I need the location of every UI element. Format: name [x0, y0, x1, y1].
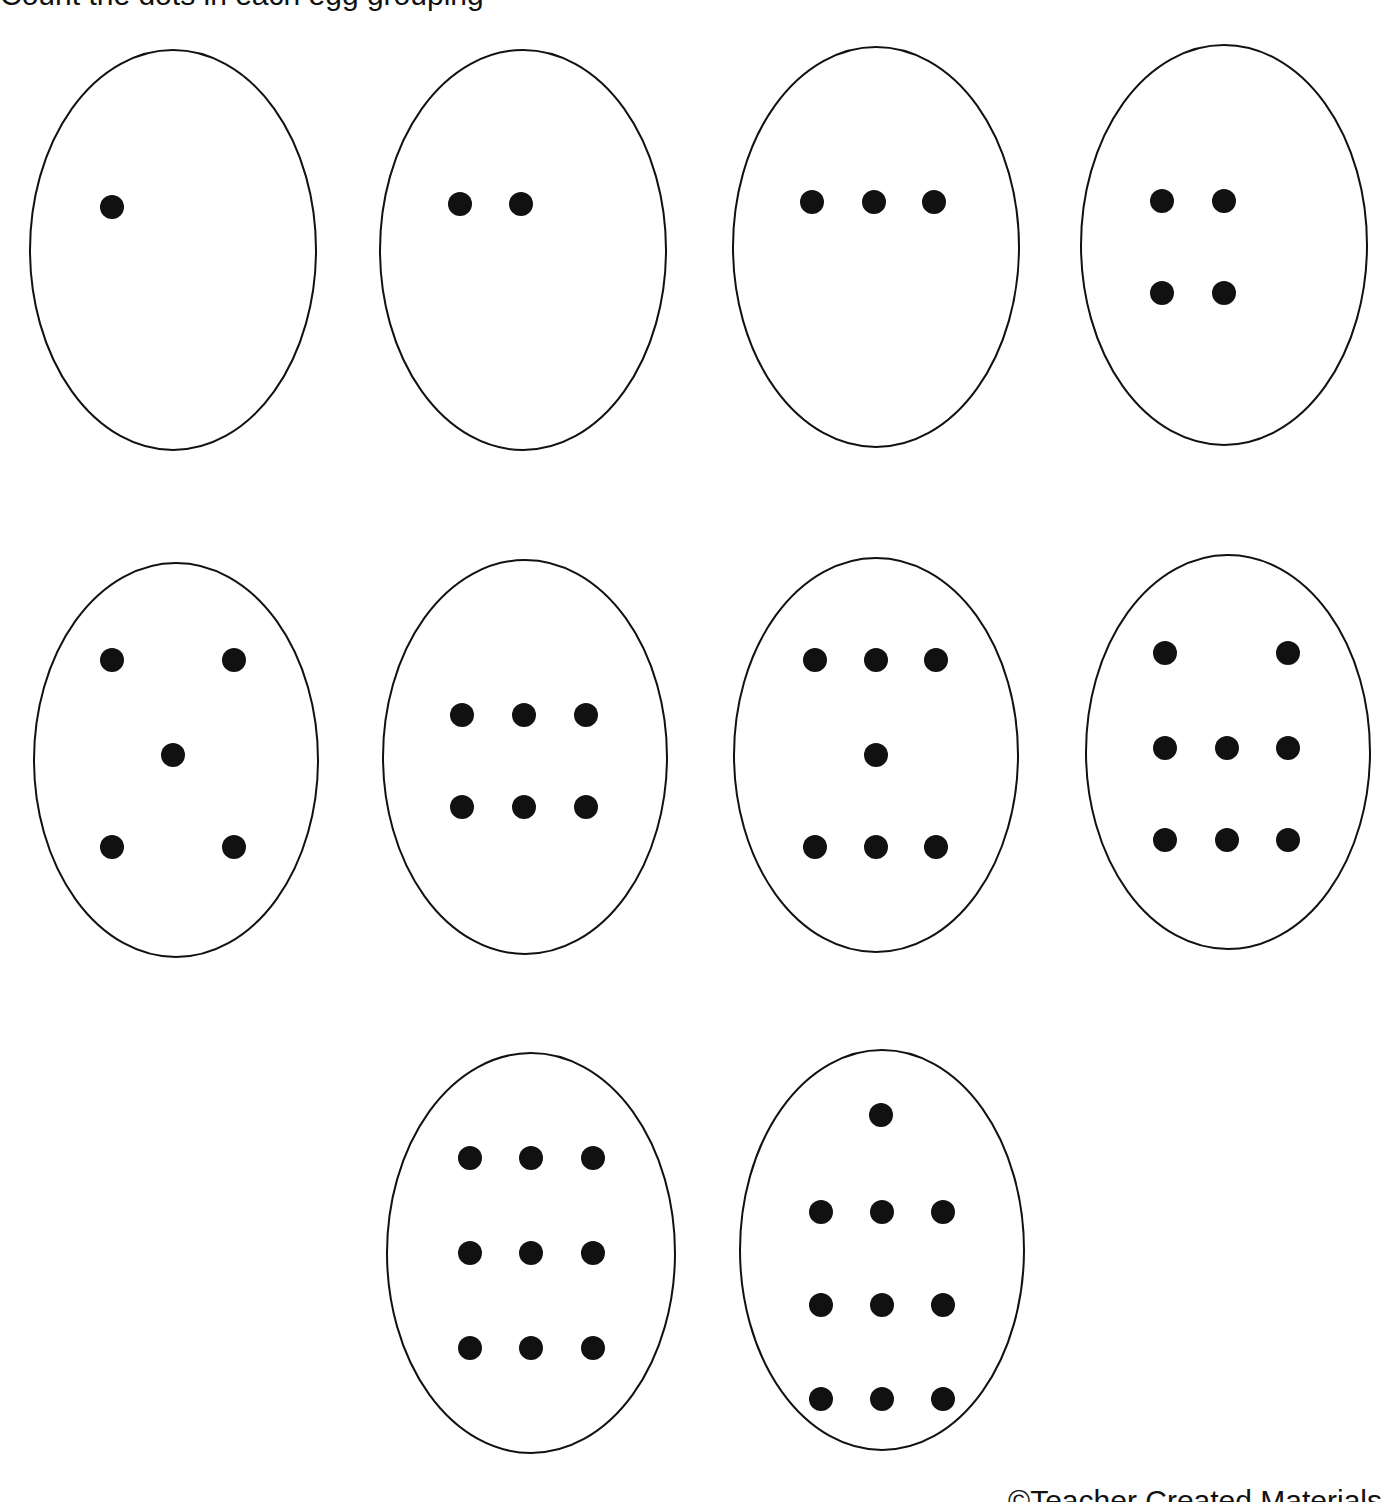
dot — [864, 835, 888, 859]
dot — [458, 1336, 482, 1360]
dot — [1215, 736, 1239, 760]
dot — [100, 195, 124, 219]
egg-worksheet — [0, 0, 1390, 1502]
dot — [1276, 736, 1300, 760]
dot — [924, 835, 948, 859]
egg-7 — [734, 558, 1018, 952]
dot — [1153, 828, 1177, 852]
dot — [809, 1293, 833, 1317]
dot — [519, 1241, 543, 1265]
dot — [1150, 281, 1174, 305]
dot — [862, 190, 886, 214]
dot — [800, 190, 824, 214]
dot — [450, 795, 474, 819]
dot — [922, 190, 946, 214]
dot — [1276, 641, 1300, 665]
egg-1 — [30, 50, 316, 450]
dot — [100, 835, 124, 859]
dot — [1153, 641, 1177, 665]
dot — [458, 1146, 482, 1170]
dot — [574, 795, 598, 819]
egg-6 — [383, 560, 667, 954]
dot — [581, 1336, 605, 1360]
egg-outline — [1081, 45, 1367, 445]
egg-outline — [30, 50, 316, 450]
dot — [870, 1387, 894, 1411]
dot — [809, 1387, 833, 1411]
dot — [869, 1103, 893, 1127]
dot — [512, 795, 536, 819]
dot — [100, 648, 124, 672]
dot — [931, 1200, 955, 1224]
dot — [870, 1200, 894, 1224]
egg-9 — [387, 1053, 675, 1453]
dot — [1153, 736, 1177, 760]
dot — [448, 192, 472, 216]
dot — [1215, 828, 1239, 852]
dot — [512, 703, 536, 727]
dot — [581, 1146, 605, 1170]
dot — [161, 743, 185, 767]
egg-10 — [740, 1050, 1024, 1450]
dot — [519, 1146, 543, 1170]
dot — [509, 192, 533, 216]
dot — [803, 835, 827, 859]
dot — [1212, 189, 1236, 213]
dot — [809, 1200, 833, 1224]
dot — [924, 648, 948, 672]
dot — [864, 648, 888, 672]
dot — [222, 648, 246, 672]
dot — [222, 835, 246, 859]
dot — [1212, 281, 1236, 305]
dot — [1276, 828, 1300, 852]
egg-5 — [34, 563, 318, 957]
footer-text-fragment: ©Teacher Created Materials — [990, 1484, 1390, 1502]
dot — [931, 1293, 955, 1317]
egg-outline — [383, 560, 667, 954]
dot — [870, 1293, 894, 1317]
egg-2 — [380, 50, 666, 450]
dot — [450, 703, 474, 727]
dot — [458, 1241, 482, 1265]
dot — [574, 703, 598, 727]
dot — [581, 1241, 605, 1265]
dot — [931, 1387, 955, 1411]
egg-outline — [380, 50, 666, 450]
egg-4 — [1081, 45, 1367, 445]
dot — [803, 648, 827, 672]
dot — [1150, 189, 1174, 213]
dot — [864, 743, 888, 767]
egg-3 — [733, 47, 1019, 447]
dot — [519, 1336, 543, 1360]
egg-outline — [733, 47, 1019, 447]
egg-8 — [1086, 555, 1370, 949]
